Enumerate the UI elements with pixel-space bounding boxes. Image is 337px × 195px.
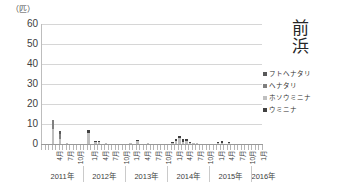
x-axis-label: 4月 <box>228 150 235 161</box>
x-axis-label: 7月 <box>239 150 246 161</box>
bar-slot <box>147 143 149 144</box>
chart-legend: フトヘナタリヘナタリホソウミニナウミニナ <box>263 68 337 116</box>
year-separator <box>83 166 84 182</box>
bar-segment <box>98 142 100 144</box>
bar-segment <box>171 143 173 144</box>
x-axis-month-labels: 4月7月10月1月4月7月10月1月4月7月10月1月4月7月10月1月4月7月… <box>41 150 263 170</box>
bar-segment <box>94 142 96 144</box>
bar-slot <box>189 142 191 144</box>
x-axis-label: 10月 <box>77 150 84 164</box>
y-axis-tick-30: 30 <box>4 79 38 89</box>
x-axis-label: 10月 <box>249 150 256 164</box>
bar-slot <box>221 141 223 144</box>
legend-item-1[interactable]: ヘナタリ <box>263 80 337 91</box>
chart-title-char: 浜 <box>288 38 312 56</box>
x-axis-label: 1月 <box>91 150 98 161</box>
bar-segment <box>182 142 184 144</box>
legend-swatch-icon <box>263 96 267 100</box>
x-axis-label: 4月 <box>102 150 109 161</box>
y-axis-tick-20: 20 <box>4 99 38 109</box>
bar-slot <box>136 140 138 144</box>
year-label: 2015年 <box>209 173 251 181</box>
bar-series-layer <box>41 24 262 144</box>
chart-container: （匹） 6050403020100 4月7月10月1月4月7月10月1月4月7月… <box>0 0 337 195</box>
chart-title: 前浜 <box>288 20 312 56</box>
bar-segment <box>221 143 223 144</box>
bar-slot <box>175 139 177 144</box>
bar-slot <box>52 120 54 144</box>
year-separator <box>125 166 126 182</box>
chart-title-char: 前 <box>288 20 312 38</box>
year-label: 2016年 <box>251 173 262 181</box>
bar-segment <box>185 141 187 144</box>
legend-label: フトヘナタリ <box>269 70 311 77</box>
bar-segment <box>189 143 191 144</box>
bar-slot <box>192 143 194 144</box>
y-axis-tick-40: 40 <box>4 59 38 69</box>
bar-segment <box>59 139 61 144</box>
x-axis-year-labels: 2011年2012年2013年2014年2015年2016年 <box>41 170 263 190</box>
bar-segment <box>147 143 149 144</box>
x-axis-label: 7月 <box>197 150 204 161</box>
x-axis-label: 7月 <box>112 150 119 161</box>
y-axis-tick-60: 60 <box>4 19 38 29</box>
year-label: 2012年 <box>83 173 125 181</box>
x-axis-label: 4月 <box>56 150 63 161</box>
year-label: 2014年 <box>167 173 209 181</box>
bar-segment <box>87 133 89 144</box>
year-separator <box>209 166 210 182</box>
bar-segment <box>192 143 194 144</box>
bar-slot <box>105 143 107 144</box>
legend-swatch-icon <box>263 108 267 112</box>
legend-swatch-icon <box>263 84 267 88</box>
bar-segment <box>178 138 180 144</box>
x-axis-label: 7月 <box>155 150 162 161</box>
year-separator <box>167 166 168 182</box>
legend-item-2[interactable]: ホソウミニナ <box>263 92 337 103</box>
bar-segment <box>52 120 54 129</box>
bar-segment <box>228 143 230 144</box>
year-label: 2011年 <box>41 173 83 181</box>
legend-item-3[interactable]: ウミニナ <box>263 104 337 115</box>
y-axis-tick-0: 0 <box>4 139 38 149</box>
bar-slot <box>66 143 68 144</box>
legend-label: ウミニナ <box>269 106 297 113</box>
x-axis-label: 1月 <box>176 150 183 161</box>
y-axis-tick-labels: 6050403020100 <box>0 0 38 195</box>
bar-slot <box>178 136 180 144</box>
x-axis-label: 10月 <box>165 150 172 164</box>
bar-segment <box>136 141 138 144</box>
bar-segment <box>196 143 198 144</box>
bar-slot <box>185 139 187 144</box>
year-separator <box>251 166 252 182</box>
y-axis-tick-50: 50 <box>4 39 38 49</box>
bar-slot <box>171 142 173 144</box>
bar-slot <box>94 141 96 144</box>
bar-segment <box>105 143 107 144</box>
bar-segment <box>52 129 54 144</box>
bar-slot <box>98 141 100 144</box>
x-axis-label: 4月 <box>186 150 193 161</box>
x-axis-label: 10月 <box>123 150 130 164</box>
x-axis-label: 7月 <box>67 150 74 161</box>
bar-slot <box>59 131 61 144</box>
legend-swatch-icon <box>263 72 267 76</box>
bar-segment <box>175 141 177 144</box>
bar-slot <box>217 142 219 144</box>
x-axis-label: 10月 <box>207 150 214 164</box>
y-axis-tick-10: 10 <box>4 119 38 129</box>
bar-slot <box>129 143 131 144</box>
x-axis-label: 4月 <box>144 150 151 161</box>
x-axis-label: 1月 <box>260 150 267 161</box>
x-axis-label: 1月 <box>218 150 225 161</box>
bar-slot <box>87 130 89 144</box>
bar-slot <box>196 143 198 144</box>
bar-segment <box>66 143 68 144</box>
legend-label: ホソウミニナ <box>269 94 311 101</box>
legend-item-0[interactable]: フトヘナタリ <box>263 68 337 79</box>
legend-label: ヘナタリ <box>269 82 297 89</box>
bar-segment <box>129 143 131 144</box>
year-label: 2013年 <box>125 173 167 181</box>
x-axis-label: 1月 <box>133 150 140 161</box>
bar-slot <box>228 142 230 144</box>
